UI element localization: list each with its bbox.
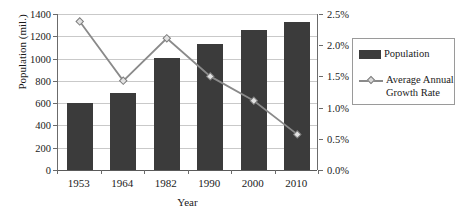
line-path	[80, 22, 297, 135]
x-axis-title: Year	[57, 196, 318, 208]
y-right-tick-mark	[319, 170, 323, 171]
y-left-tick-label: 400	[7, 120, 51, 131]
legend-diamond-marker	[367, 76, 375, 84]
y-right-tick-mark	[319, 45, 323, 46]
x-tick-mark	[57, 170, 58, 174]
y-axis-title: Population (mil.)	[16, 0, 28, 118]
legend-label-growth-rate: Average Annual Growth Rate	[386, 74, 454, 99]
population-growth-chart: 0200400600800100012001400 0.0%0.5%1.0%1.…	[0, 0, 462, 224]
x-tick-label-2010: 2010	[266, 177, 326, 189]
growth-rate-line	[58, 14, 319, 170]
plot-area	[57, 14, 318, 170]
legend-item-population: Population	[359, 48, 430, 61]
x-tick-mark	[318, 170, 319, 174]
bar-swatch-icon	[359, 50, 381, 59]
x-tick-mark	[231, 170, 232, 174]
y-left-tick-label: 800	[7, 76, 51, 87]
y-left-tick-label: 0	[7, 165, 51, 176]
y-right-tick-mark	[319, 76, 323, 77]
y-left-tick-label: 200	[7, 143, 51, 154]
y-right-tick-mark	[319, 108, 323, 109]
x-tick-mark	[144, 170, 145, 174]
y-right-tick-label: 0.5%	[327, 134, 373, 145]
y-right-tick-mark	[319, 14, 323, 15]
y-right-tick-label: 0.0%	[327, 165, 373, 176]
line-series-layer	[58, 14, 317, 170]
x-tick-mark	[101, 170, 102, 174]
y-left-tick-label: 1400	[7, 9, 51, 20]
legend-label-population: Population	[384, 48, 430, 61]
y-right-tick-label: 2.5%	[327, 9, 373, 20]
y-right-tick-mark	[319, 139, 323, 140]
y-left-tick-label: 1000	[7, 54, 51, 65]
line-marker-icon	[359, 75, 383, 86]
chart-legend: Population Average Annual Growth Rate	[352, 38, 455, 105]
x-tick-mark	[275, 170, 276, 174]
y-left-tick-label: 1200	[7, 31, 51, 42]
x-tick-mark	[188, 170, 189, 174]
y-left-tick-label: 600	[7, 98, 51, 109]
legend-item-growth-rate: Average Annual Growth Rate	[359, 74, 454, 99]
